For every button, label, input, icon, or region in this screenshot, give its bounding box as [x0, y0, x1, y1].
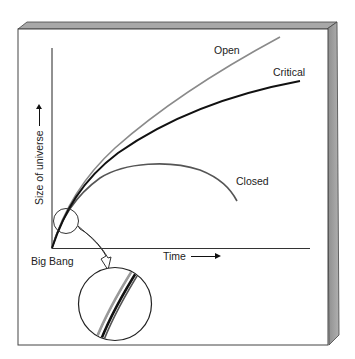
- panel-side-bevel: [327, 22, 339, 345]
- critical-curve-label: Critical: [273, 67, 305, 78]
- open-curve-label: Open: [214, 45, 240, 56]
- diagram-canvas: Open Critical Closed Size of universe Ti…: [0, 0, 355, 359]
- x-axis-arrow-icon: [191, 256, 217, 258]
- x-axis-label-text: Time: [163, 251, 186, 262]
- panel-top-bevel: [18, 22, 337, 29]
- universe-expansion-diagram: [0, 0, 355, 359]
- big-bang-label: Big Bang: [31, 256, 74, 267]
- y-axis-label: Size of universe: [34, 108, 45, 205]
- x-axis-label: Time: [163, 251, 217, 262]
- closed-curve-label: Closed: [236, 176, 269, 187]
- y-axis-label-text: Size of universe: [34, 130, 45, 205]
- y-axis-arrow-icon: [39, 108, 41, 126]
